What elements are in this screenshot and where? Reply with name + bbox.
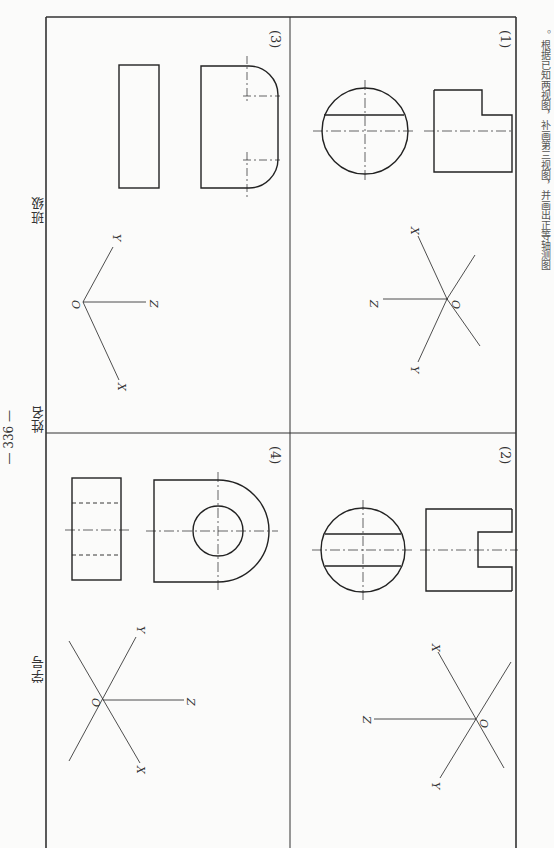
axis-label-origin: O [449, 300, 462, 309]
axis-label-origin: O [89, 698, 102, 707]
axis-label-y: Y [429, 782, 442, 791]
axis-label-y: Y [408, 366, 421, 375]
axis-label-z: Z [360, 715, 373, 724]
worksheet-page: Z X Y O Z X Y O [0, 0, 554, 848]
drawing-canvas: Z X Y O Z X Y O [0, 0, 554, 848]
axis-label-x: X [115, 382, 128, 392]
panel-4-axis-labels: Z Y X O [89, 626, 197, 775]
axis-label-x: X [408, 226, 421, 236]
panel-3-drawing [83, 56, 280, 380]
panel-4-drawing [65, 472, 278, 763]
axis-label-y: Y [134, 626, 147, 635]
panel-2-drawing [312, 500, 518, 778]
student-id-field-label: 学号 [28, 655, 47, 683]
instruction-text: 。根据已知两视图，补画第三视图，并画出正等轴测图 [537, 30, 552, 450]
panel-3-axis-labels: Z Y X O [69, 234, 160, 392]
name-field-label: 姓名 [28, 405, 47, 433]
panel-label-2: (2) [498, 446, 513, 464]
panel-2-axis-labels: Z X Y O [360, 643, 490, 791]
axis-label-x: X [429, 643, 442, 653]
axis-label-z: Z [147, 299, 160, 308]
axis-label-y: Y [110, 234, 123, 243]
axis-label-origin: O [477, 719, 490, 728]
axis-label-origin: O [69, 300, 82, 309]
panel-label-3: (3) [268, 30, 283, 48]
panel-1-drawing [313, 80, 514, 362]
panel-label-1: (1) [498, 30, 513, 48]
page-number: — 336 — [2, 410, 16, 465]
axis-label-z: Z [184, 697, 197, 706]
axis-label-x: X [134, 765, 147, 775]
class-field-label: 班级 [28, 196, 47, 224]
panel-label-4: (4) [268, 446, 283, 464]
axis-label-z: Z [367, 299, 380, 308]
